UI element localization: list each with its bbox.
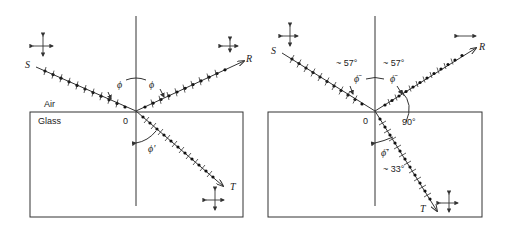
glass-label: Glass (38, 116, 62, 126)
air-label: Air (44, 99, 55, 109)
origin-label: 0 (363, 116, 368, 126)
reflection-pointer (397, 86, 402, 94)
incidence-pointer (350, 86, 353, 94)
reflected-ray-label: R (478, 41, 485, 52)
polarization-symbol-transmitted (440, 194, 458, 212)
incidence-angle-value: ~ 57° (336, 58, 358, 68)
right-panel: 0 S (268, 16, 485, 217)
polarization-symbol-transmitted (206, 190, 224, 210)
brewster-angle-diagram: Air Glass 0 S (0, 0, 510, 230)
polarization-symbol-incident (33, 36, 53, 56)
incidence-angle-symbol: ϕ̄ (354, 73, 362, 84)
reflection-angle-value: ~ 57° (383, 58, 405, 68)
right-angle-label: 90° (402, 117, 416, 127)
incident-ray (282, 53, 375, 111)
reflection-pointer (160, 89, 164, 97)
polarization-symbol-incident (282, 26, 298, 46)
reflection-angle-symbol: ϕ̄ (390, 73, 398, 84)
reflection-angle-label: ϕ (149, 79, 154, 90)
refraction-angle-value: ~ 33° (383, 164, 405, 174)
refraction-angle-label: ϕ' (148, 143, 156, 154)
left-panel: Air Glass 0 S (25, 16, 252, 217)
incident-ray-label: S (271, 45, 276, 56)
incident-ray-label: S (25, 59, 30, 70)
refraction-angle-symbol: ϕ̄' (381, 147, 389, 158)
transmitted-ray-label: T (420, 203, 427, 214)
transmitted-ray-label: T (230, 181, 237, 192)
origin-label: 0 (123, 116, 128, 126)
reflected-ray-label: R (245, 53, 252, 64)
incidence-angle-label: ϕ (117, 79, 122, 90)
refraction-arc (136, 131, 156, 143)
polarization-symbol-reflected (222, 40, 238, 52)
